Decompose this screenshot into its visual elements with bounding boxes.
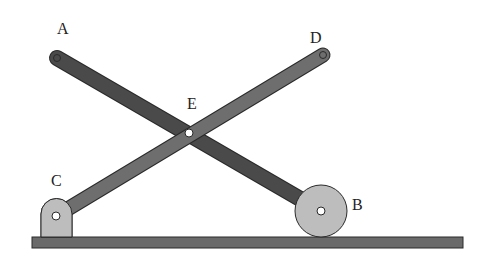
label-c: C	[51, 172, 62, 189]
label-a: A	[57, 20, 69, 37]
label-b: B	[352, 196, 363, 213]
pin-b-icon	[317, 207, 325, 215]
label-d: D	[310, 29, 322, 46]
scissor-linkage-diagram: A D E C B	[0, 0, 480, 263]
label-e: E	[187, 95, 197, 112]
ground-bar	[32, 237, 463, 248]
pin-e-icon	[185, 129, 193, 137]
pin-c-icon	[52, 212, 60, 220]
